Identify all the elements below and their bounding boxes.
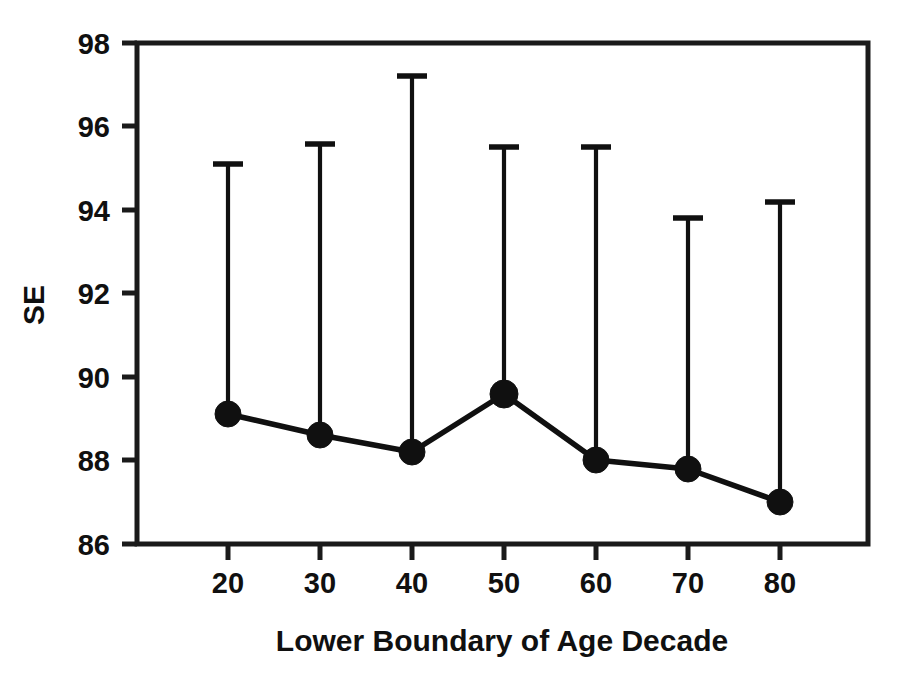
y-tick-label-86: 86 xyxy=(78,529,110,561)
chart-figure: 98 96 94 92 90 88 86 20 30 40 50 60 70 8… xyxy=(0,0,901,679)
data-point-30 xyxy=(307,422,333,448)
y-tick-label-88: 88 xyxy=(78,445,110,477)
x-tick-label-40: 40 xyxy=(396,567,428,599)
y-tick-label-90: 90 xyxy=(78,362,110,394)
y-tick-label-92: 92 xyxy=(78,278,110,310)
x-tick-label-50: 50 xyxy=(488,567,520,599)
x-axis-tick-labels: 20 30 40 50 60 70 80 xyxy=(212,567,796,599)
x-tick-label-20: 20 xyxy=(212,567,244,599)
x-tick-label-30: 30 xyxy=(304,567,336,599)
data-point-80 xyxy=(767,489,793,515)
x-tick-label-60: 60 xyxy=(580,567,612,599)
y-tick-label-96: 96 xyxy=(78,111,110,143)
data-point-50 xyxy=(490,380,518,408)
se-vs-age-decade-chart: 98 96 94 92 90 88 86 20 30 40 50 60 70 8… xyxy=(0,0,901,679)
data-point-60 xyxy=(583,447,609,473)
x-tick-label-80: 80 xyxy=(764,567,796,599)
y-tick-label-94: 94 xyxy=(78,195,110,227)
x-axis-title: Lower Boundary of Age Decade xyxy=(276,624,728,657)
y-axis-tick-labels: 98 96 94 92 90 88 86 xyxy=(78,28,110,561)
data-point-20 xyxy=(215,401,241,427)
y-tick-label-98: 98 xyxy=(78,28,110,60)
data-point-40 xyxy=(399,439,425,465)
x-tick-label-70: 70 xyxy=(672,567,704,599)
data-point-70 xyxy=(675,456,701,482)
y-axis-title: SE xyxy=(17,285,50,325)
